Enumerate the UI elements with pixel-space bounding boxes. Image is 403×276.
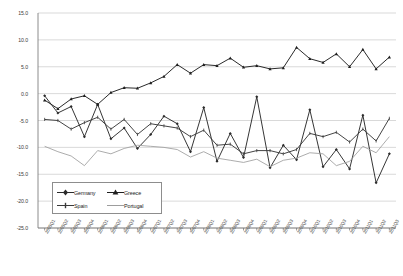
x-tick-label: 2007Q1 [150, 219, 162, 235]
germany-marker-icon [57, 188, 74, 197]
x-axis-tick-labels: 2005Q12005Q22005Q32005Q42006Q12006Q22006… [0, 0, 403, 276]
x-tick-label: 2005Q4 [83, 219, 95, 235]
x-tick-label: 2008Q2 [216, 219, 228, 235]
x-tick-label: 2010Q3 [335, 219, 347, 235]
x-tick-label: 2005Q2 [57, 219, 69, 235]
greece-marker-icon [107, 188, 124, 197]
spain-marker-icon [57, 201, 74, 210]
x-tick-label: 2006Q1 [97, 219, 109, 235]
x-tick-label: 2007Q2 [163, 219, 175, 235]
x-tick-label: 2006Q3 [123, 219, 135, 235]
x-tick-label: 2009Q3 [282, 219, 294, 235]
legend-label-portugal: Portugal [124, 203, 143, 209]
x-tick-label: 2011Q1 [362, 219, 374, 235]
x-tick-label: 2007Q4 [189, 219, 201, 235]
legend-item-greece[interactable]: Greece [107, 188, 157, 197]
legend-label-germany: Germany [74, 190, 95, 196]
x-tick-label: 2011Q2 [375, 219, 387, 235]
x-tick-label: 2010Q4 [349, 219, 361, 235]
legend-label-greece: Greece [124, 190, 141, 196]
portugal-marker-icon [107, 201, 124, 210]
x-tick-label: 2006Q2 [110, 219, 122, 235]
x-tick-label: 2008Q1 [203, 219, 215, 235]
x-tick-label: 2011Q3 [388, 219, 400, 235]
legend-item-germany[interactable]: Germany [57, 188, 107, 197]
x-tick-label: 2010Q2 [322, 219, 334, 235]
x-tick-label: 2008Q3 [229, 219, 241, 235]
legend-item-spain[interactable]: Spain [57, 201, 107, 210]
legend-label-spain: Spain [74, 203, 87, 209]
chart-figure: 15.010.05.00.0-5.0-10.0-15.0-20.0-25.0 2… [0, 0, 403, 276]
x-tick-label: 2009Q2 [269, 219, 281, 235]
x-tick-label: 2006Q4 [136, 219, 148, 235]
legend-row: Spain Portugal [57, 199, 157, 212]
x-tick-label: 2009Q4 [296, 219, 308, 235]
x-tick-label: 2010Q1 [309, 219, 321, 235]
x-tick-label: 2007Q3 [176, 219, 188, 235]
legend-row: Germany Greece [57, 186, 157, 199]
chart-legend: Germany Greece Spain Portugal [52, 182, 162, 214]
legend-item-portugal[interactable]: Portugal [107, 201, 157, 210]
x-tick-label: 2009Q1 [256, 219, 268, 235]
x-tick-label: 2005Q3 [70, 219, 82, 235]
x-tick-label: 2008Q4 [243, 219, 255, 235]
x-tick-label: 2005Q1 [44, 219, 56, 235]
